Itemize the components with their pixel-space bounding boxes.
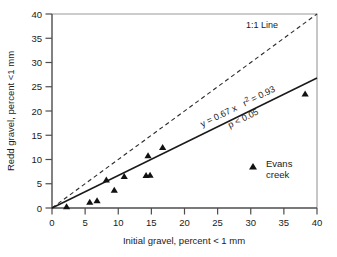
x-tick-labels: 0 5 10 15 20 25 30 35 40 xyxy=(49,217,322,228)
scatter-plot: 0 5 10 15 20 25 30 35 40 0 5 10 15 20 25… xyxy=(0,0,337,257)
data-point xyxy=(86,199,93,205)
y-tick-label: 40 xyxy=(31,9,42,20)
x-tick-label: 30 xyxy=(245,217,256,228)
x-tick-label: 20 xyxy=(179,217,190,228)
y-tick-label: 25 xyxy=(31,81,42,92)
legend: Evans creek xyxy=(249,158,293,180)
data-point xyxy=(144,152,151,158)
data-points xyxy=(63,91,309,210)
x-tick-label: 5 xyxy=(82,217,87,228)
one-to-one-label: 1:1 Line xyxy=(246,20,278,30)
y-tick-labels: 0 5 10 15 20 25 30 35 40 xyxy=(31,9,42,214)
x-tick-label: 25 xyxy=(212,217,223,228)
x-tick-label: 40 xyxy=(312,217,323,228)
y-axis-title: Redd gravel, percent <1 mm xyxy=(5,51,16,171)
x-tick-label: 35 xyxy=(279,217,290,228)
x-axis-title: Initial gravel, percent < 1 mm xyxy=(123,235,245,246)
regression-annotation-group: y = 0.67 x r2 = 0.93 p < 0.05 xyxy=(198,83,282,141)
y-tick-label: 30 xyxy=(31,57,42,68)
data-point xyxy=(159,144,166,150)
r-squared-value: = 0.93 xyxy=(247,84,276,105)
x-tick-label: 0 xyxy=(49,217,54,228)
legend-label-line1: Evans xyxy=(266,158,293,169)
y-tick-label: 10 xyxy=(31,154,42,165)
legend-label-line2: creek xyxy=(266,169,289,180)
y-tick-label: 35 xyxy=(31,33,42,44)
x-tick-label: 10 xyxy=(113,217,124,228)
y-tick-label: 0 xyxy=(37,203,42,214)
y-tick-label: 15 xyxy=(31,130,42,141)
x-axis-ticks xyxy=(52,208,317,215)
data-point xyxy=(111,187,118,193)
legend-triangle-marker xyxy=(249,163,257,170)
r-squared-label: r2 = 0.93 xyxy=(241,83,277,108)
chart-figure: 0 5 10 15 20 25 30 35 40 0 5 10 15 20 25… xyxy=(0,0,337,257)
y-tick-label: 20 xyxy=(31,106,42,117)
y-tick-label: 5 xyxy=(37,178,42,189)
x-tick-label: 15 xyxy=(146,217,157,228)
data-point xyxy=(63,203,70,209)
data-point xyxy=(302,91,309,97)
data-point xyxy=(93,197,100,203)
regression-line xyxy=(52,78,317,208)
y-axis-ticks xyxy=(46,14,53,208)
